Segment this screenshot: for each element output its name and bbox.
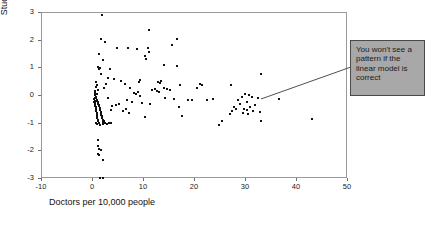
scatter-point xyxy=(176,38,178,40)
y-axis-tick-label: -1 xyxy=(12,119,34,127)
scatter-point xyxy=(244,93,246,95)
scatter-point xyxy=(242,112,244,114)
scatter-point xyxy=(109,68,111,70)
scatter-point xyxy=(260,120,262,122)
scatter-point xyxy=(97,139,99,141)
scatter-point xyxy=(102,59,104,61)
scatter-point xyxy=(144,116,146,118)
scatter-point xyxy=(179,84,181,86)
scatter-point xyxy=(191,99,193,101)
scatter-point xyxy=(231,110,233,112)
scatter-point xyxy=(100,73,102,75)
x-axis-tick-label: 0 xyxy=(80,183,104,191)
scatter-point xyxy=(164,97,166,99)
callout-box: You won't see a pattern if the linear mo… xyxy=(350,40,425,96)
scatter-point xyxy=(235,108,237,110)
figure-root: -3-2-10123-1001020304050 Studentized Del… xyxy=(0,0,429,230)
scatter-point xyxy=(246,101,248,103)
x-axis-tick xyxy=(296,178,297,181)
scatter-point xyxy=(178,106,180,108)
scatter-point xyxy=(169,89,171,91)
scatter-point xyxy=(259,111,261,113)
scatter-point xyxy=(176,65,178,67)
scatter-point xyxy=(101,14,103,16)
scatter-point xyxy=(102,159,104,161)
scatter-point xyxy=(249,106,251,108)
scatter-point xyxy=(229,113,231,115)
scatter-point xyxy=(247,113,249,115)
scatter-point xyxy=(98,154,100,156)
scatter-point xyxy=(221,120,223,122)
scatter-point xyxy=(173,98,175,100)
scatter-point xyxy=(251,96,253,98)
scatter-point xyxy=(212,98,214,100)
scatter-point xyxy=(206,99,208,101)
scatter-point xyxy=(246,109,248,111)
scatter-point xyxy=(100,149,102,151)
scatter-point xyxy=(144,55,146,57)
scatter-point xyxy=(103,87,105,89)
scatter-point xyxy=(237,99,239,101)
y-axis-tick-label: 1 xyxy=(12,63,34,71)
y-axis-tick-label: 2 xyxy=(12,36,34,44)
scatter-point xyxy=(102,123,104,125)
scatter-point xyxy=(129,87,131,89)
scatter-point xyxy=(311,118,313,120)
scatter-point xyxy=(201,84,203,86)
scatter-point xyxy=(149,103,151,105)
scatter-point xyxy=(116,47,118,49)
x-axis-tick-label: 50 xyxy=(335,183,359,191)
scatter-point xyxy=(138,81,140,83)
y-axis-tick-label: 0 xyxy=(12,91,34,99)
scatter-point xyxy=(120,80,122,82)
scatter-point xyxy=(163,64,165,66)
scatter-point xyxy=(110,109,112,111)
scatter-point xyxy=(141,102,143,104)
scatter-point xyxy=(118,103,120,105)
scatter-point xyxy=(254,104,256,106)
x-axis-tick-label: 40 xyxy=(284,183,308,191)
x-axis-tick xyxy=(143,178,144,181)
scatter-point xyxy=(125,108,127,110)
scatter-point xyxy=(163,87,165,89)
scatter-point xyxy=(196,87,198,89)
scatter-point xyxy=(148,51,150,53)
scatter-point xyxy=(96,123,98,125)
scatter-point xyxy=(113,78,115,80)
scatter-point xyxy=(148,29,150,31)
x-axis-tick xyxy=(194,178,195,181)
scatter-point xyxy=(158,91,160,93)
x-axis-tick-label: 20 xyxy=(182,183,206,191)
scatter-point xyxy=(104,41,106,43)
scatter-point xyxy=(139,95,141,97)
scatter-point xyxy=(171,44,173,46)
x-axis-tick xyxy=(347,178,348,181)
scatter-point xyxy=(241,96,243,98)
y-axis-tick-label: -3 xyxy=(12,174,34,182)
scatter-point xyxy=(111,105,113,107)
scatter-point xyxy=(252,110,254,112)
scatter-point xyxy=(135,93,137,95)
scatter-point xyxy=(105,83,107,85)
scatter-point xyxy=(230,84,232,86)
x-axis-tick-label: 30 xyxy=(233,183,257,191)
y-axis-title: Studentized Deleted Residual xyxy=(0,0,9,26)
scatter-point xyxy=(99,124,101,126)
x-axis-tick xyxy=(245,178,246,181)
scatter-point xyxy=(103,120,105,122)
scatter-point xyxy=(137,91,139,93)
scatter-point xyxy=(97,89,99,91)
scatter-point xyxy=(102,177,104,179)
scatter-point xyxy=(239,103,241,105)
scatter-point xyxy=(187,99,189,101)
y-axis-tick-label: 3 xyxy=(12,8,34,16)
scatter-point xyxy=(126,99,128,101)
scatter-point xyxy=(181,115,183,117)
x-axis-tick-label: -10 xyxy=(29,183,53,191)
scatter-point xyxy=(110,122,112,124)
scatter-point xyxy=(107,77,109,79)
x-axis-tick xyxy=(92,178,93,181)
scatter-point xyxy=(218,124,220,126)
x-axis-tick-label: 10 xyxy=(131,183,155,191)
scatter-point xyxy=(147,47,149,49)
